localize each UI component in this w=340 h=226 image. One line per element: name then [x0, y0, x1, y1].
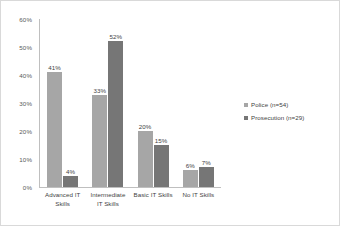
y-tick-label: 10% [19, 155, 32, 162]
bar-prosecution-intermediate[interactable] [108, 41, 123, 187]
bar-group-basic-it-skills: 20% 15% [131, 19, 176, 187]
bar-value-label: 15% [155, 137, 168, 144]
y-tick-label: 30% [19, 100, 32, 107]
x-category-line: IT Skills [85, 200, 130, 209]
bar-police-advanced[interactable] [47, 72, 62, 187]
legend-item-police[interactable]: Police (n=54) [244, 101, 304, 108]
x-category-line: Skills [40, 200, 85, 209]
bar-groups: 41% 4% 33% 52% 20% 15% [40, 19, 221, 187]
bar-police-basic[interactable] [138, 131, 153, 187]
legend-item-label: Police (n=54) [251, 101, 288, 108]
bar-wrap: 15% [154, 19, 169, 187]
bar-value-label: 41% [48, 64, 61, 71]
bar-wrap: 52% [108, 19, 123, 187]
bar-prosecution-advanced[interactable] [63, 176, 78, 187]
y-tick-label: 40% [19, 71, 32, 78]
bar-wrap: 4% [63, 19, 78, 187]
bar-wrap: 20% [138, 19, 153, 187]
legend-swatch-icon [244, 116, 248, 120]
bar-group-intermediate-it-skills: 33% 52% [85, 19, 130, 187]
x-category-line: Basic IT Skills [131, 191, 176, 200]
bar-wrap: 6% [183, 19, 198, 187]
x-axis-line [39, 187, 221, 188]
x-category-no-it-skills: No IT Skills [176, 191, 221, 208]
x-category-line: No IT Skills [176, 191, 221, 200]
y-tick-label: 50% [19, 44, 32, 51]
x-category-advanced-it-skills: Advanced IT Skills [40, 191, 85, 208]
legend-item-prosecution[interactable]: Prosecution (n=29) [244, 114, 304, 121]
x-category-line: Intermediate [85, 191, 130, 200]
bar-wrap: 7% [199, 19, 214, 187]
bar-chart-figure: 60% 50% 40% 30% 20% 10% 0% 41% 4% 33% [0, 0, 340, 226]
bar-value-label: 33% [94, 87, 107, 94]
x-axis: Advanced IT Skills Intermediate IT Skill… [40, 191, 221, 208]
legend-swatch-icon [244, 103, 248, 107]
bar-prosecution-basic[interactable] [154, 145, 169, 187]
x-category-basic-it-skills: Basic IT Skills [131, 191, 176, 208]
y-axis: 60% 50% 40% 30% 20% 10% 0% [1, 19, 35, 187]
bar-prosecution-none[interactable] [199, 167, 214, 187]
bar-group-no-it-skills: 6% 7% [176, 19, 221, 187]
bar-value-label: 7% [202, 159, 211, 166]
legend: Police (n=54) Prosecution (n=29) [244, 101, 304, 121]
bar-police-intermediate[interactable] [92, 95, 107, 187]
bar-police-none[interactable] [183, 170, 198, 187]
bar-value-label: 20% [139, 123, 152, 130]
bar-value-label: 52% [110, 33, 123, 40]
bar-wrap: 33% [92, 19, 107, 187]
bar-group-advanced-it-skills: 41% 4% [40, 19, 85, 187]
bar-value-label: 6% [186, 162, 195, 169]
x-category-line: Advanced IT [40, 191, 85, 200]
legend-item-label: Prosecution (n=29) [251, 114, 304, 121]
bar-value-label: 4% [66, 168, 75, 175]
bar-wrap: 41% [47, 19, 62, 187]
x-category-intermediate-it-skills: Intermediate IT Skills [85, 191, 130, 208]
y-tick-label: 60% [19, 16, 32, 23]
y-tick-label: 20% [19, 128, 32, 135]
y-tick-label: 0% [23, 184, 32, 191]
